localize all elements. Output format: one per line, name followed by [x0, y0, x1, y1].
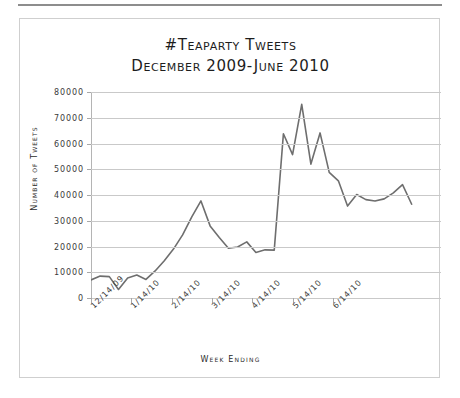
chart-frame: #Teaparty Tweets December 2009-June 2010… — [19, 18, 440, 378]
y-tick-mark — [87, 221, 91, 222]
page-title: #Teaparty Tweets — [20, 35, 441, 55]
gridline — [91, 169, 441, 170]
y-tick-label: 10000 — [54, 268, 84, 277]
x-axis-title: Week Ending — [20, 355, 441, 364]
y-tick-label: 80000 — [54, 88, 84, 97]
gridline — [91, 144, 441, 145]
y-tick-label: 20000 — [54, 243, 84, 252]
y-tick-label: 30000 — [54, 217, 84, 226]
chart-page: #Teaparty Tweets December 2009-June 2010… — [0, 0, 460, 398]
y-tick-label: 40000 — [54, 191, 84, 200]
y-tick-label: 0 — [78, 294, 84, 303]
y-tick-mark — [87, 195, 91, 196]
gridline — [91, 221, 441, 222]
y-tick-label: 60000 — [54, 140, 84, 149]
top-divider-rule — [18, 4, 442, 6]
plot-area — [91, 92, 441, 298]
gridline — [91, 195, 441, 196]
y-tick-mark — [87, 169, 91, 170]
gridline — [91, 92, 441, 93]
y-tick-mark — [87, 247, 91, 248]
x-axis-tick-labels: 12/14/091/14/102/14/103/14/104/14/105/14… — [91, 304, 443, 354]
gridline — [91, 272, 441, 273]
y-tick-label: 70000 — [54, 114, 84, 123]
y-tick-mark — [87, 92, 91, 93]
y-tick-mark — [87, 272, 91, 273]
gridline — [91, 118, 441, 119]
y-tick-label: 50000 — [54, 165, 84, 174]
y-axis-tick-labels: 8000070000600005000040000300002000010000… — [20, 92, 84, 302]
y-tick-mark — [87, 118, 91, 119]
chart-title-block: #Teaparty Tweets December 2009-June 2010 — [20, 35, 441, 77]
gridline — [91, 247, 441, 248]
y-tick-mark — [87, 144, 91, 145]
chart-subtitle: December 2009-June 2010 — [20, 55, 441, 77]
